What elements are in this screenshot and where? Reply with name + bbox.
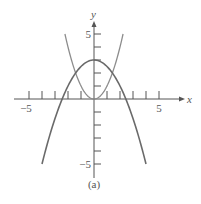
figure-caption: (a) <box>88 178 101 191</box>
chart: x y −555−5 (a) <box>0 0 201 204</box>
x-axis-arrow-icon <box>179 97 185 102</box>
y-axis-arrow-icon <box>92 21 97 27</box>
y-tick-label: 5 <box>86 28 92 40</box>
y-tick-label: −5 <box>79 158 91 170</box>
y-axis-label: y <box>90 8 96 20</box>
x-tick-label: −5 <box>20 102 32 114</box>
x-axis-label: x <box>186 93 192 105</box>
x-tick-label: 5 <box>156 102 162 114</box>
